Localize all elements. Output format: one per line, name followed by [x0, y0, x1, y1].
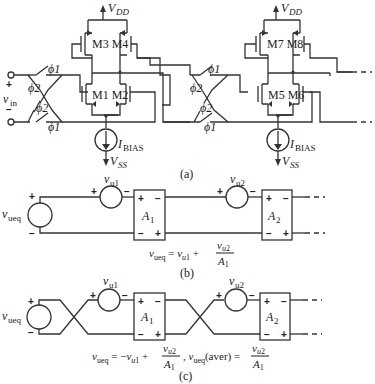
svg-text:A1: A1 [252, 358, 264, 372]
a2-out-minus-b: − [283, 193, 289, 204]
vueq-minus-b: − [29, 228, 35, 239]
a2-label-b: A [267, 209, 276, 223]
caption-a: (a) [180, 167, 193, 181]
a1-out-plus-b: + [155, 228, 161, 239]
a1-sub-c: 1 [149, 316, 154, 326]
vin-label: v [3, 92, 9, 106]
vueq-sub-c: ueq [8, 315, 21, 325]
vu1-sub-c: u1 [109, 280, 118, 290]
phi2-label-1b: ϕ2 [36, 101, 48, 115]
svg-text:vu2: vu2 [217, 239, 230, 253]
a2-out-minus-c: − [281, 296, 287, 307]
chopper-amplifier-figure: + − v in ϕ1 ϕ2 ϕ2 ϕ1 V DD [0, 0, 375, 384]
a1-in-plus-c: + [138, 296, 144, 307]
a1-in-plus-b: + [138, 193, 144, 204]
a1-label-b: A [141, 209, 150, 223]
svg-text:vu2: vu2 [252, 342, 265, 356]
equation-c: vueq = −vu1 + vu2 A1 , vueq(aver) = vu2 … [92, 342, 269, 372]
vu1-sub-b: u1 [110, 178, 119, 188]
vueq-source-b [28, 203, 52, 227]
a2-in-plus-c: + [264, 296, 270, 307]
vueq-source-c [27, 305, 51, 329]
vu1-source-c [98, 289, 120, 311]
vin-sub: in [10, 98, 18, 108]
a2-label-c: A [265, 310, 274, 324]
m7-m8-label: M7 M8 [267, 37, 303, 51]
phi1-label-2b: ϕ1 [204, 120, 216, 134]
phi2-label-1a: ϕ2 [28, 81, 40, 95]
vu2-sub-c: u2 [235, 280, 244, 290]
phi2-label-2b: ϕ2 [200, 101, 212, 115]
ibias-sub-1: BIAS [123, 143, 144, 153]
a1-out-minus-c: − [155, 296, 161, 307]
vu1-minus-b: − [124, 186, 130, 197]
vu2-sub-b: u2 [236, 178, 245, 188]
a1-in-minus-c: − [138, 329, 144, 340]
m1-m2-label: M1 M2 [92, 88, 128, 102]
vueq-plus-c: + [28, 296, 34, 307]
a2-in-plus-b: + [266, 193, 272, 204]
ibias-sub-2: BIAS [295, 143, 316, 153]
phi1-label-1b: ϕ1 [48, 120, 60, 134]
part-a-circuit: + − v in ϕ1 ϕ2 ϕ2 ϕ1 V DD [3, 1, 372, 181]
a1-label-c: A [140, 310, 149, 324]
vu2-source-b [226, 186, 248, 208]
vss-sub-1: SS [118, 160, 128, 170]
phi1-label-1a: ϕ1 [48, 62, 60, 76]
vu2-plus-c: + [216, 290, 222, 301]
stage2-diff-amp: V DD M7 M8 M5 M6 [245, 1, 352, 170]
svg-text:A1: A1 [217, 255, 229, 269]
svg-text:, vueq(aver) =: , vueq(aver) = [183, 350, 240, 365]
vueq-minus-c: − [28, 327, 34, 338]
a1-out-plus-c: + [155, 329, 161, 340]
vin-minus-terminal [8, 119, 14, 125]
stage1-diff-amp: V DD M3 M4 M1 M2 [72, 1, 170, 170]
vin-plus-sign: + [6, 79, 12, 90]
a2-in-minus-b: − [266, 228, 272, 239]
phi2-label-2a: ϕ2 [190, 81, 202, 95]
m3-m4-label: M3 M4 [92, 37, 128, 51]
a2-out-plus-b: + [283, 228, 289, 239]
svg-text:A1: A1 [163, 358, 175, 372]
phi1-label-2a: ϕ1 [208, 62, 220, 76]
equation-b: vueq = vu1 + vu2 A1 [149, 239, 234, 269]
a2-sub-b: 2 [276, 215, 281, 225]
caption-c: (c) [179, 369, 192, 383]
m5-m6-label: M5 M6 [268, 88, 304, 102]
vu2-plus-b: + [217, 186, 223, 197]
a1-sub-b: 1 [150, 215, 155, 225]
vueq-plus-b: + [29, 191, 35, 202]
a1-out-minus-b: − [155, 193, 161, 204]
a2-sub-c: 2 [274, 316, 279, 326]
svg-text:vueq = vu1 +: vueq = vu1 + [149, 247, 199, 262]
caption-b: (b) [180, 266, 194, 280]
vss-sub-2: SS [290, 160, 300, 170]
vu1-plus-b: + [91, 186, 97, 197]
svg-text:vueq = −vu1 +: vueq = −vu1 + [92, 350, 148, 365]
vu2-minus-b: − [250, 186, 256, 197]
vu1-plus-c: + [90, 290, 96, 301]
a2-out-plus-c: + [281, 329, 287, 340]
part-b-circuit: + − v ueq + − v u1 + − − + A 1 + − v u2 … [2, 172, 325, 280]
a1-in-minus-b: − [138, 228, 144, 239]
vdd-sub-2: DD [288, 7, 302, 17]
vueq-sub-b: ueq [8, 213, 21, 223]
a2-in-minus-c: − [264, 329, 270, 340]
vdd-sub-1: DD [115, 7, 129, 17]
vu2-source-c [225, 289, 247, 311]
part-c-circuit: + − v ueq + − v u1 + − − + A 1 + − v u2 … [2, 274, 322, 383]
vin-plus-terminal [8, 72, 14, 78]
vu1-source-b [100, 186, 122, 208]
svg-text:vu2: vu2 [163, 342, 176, 356]
